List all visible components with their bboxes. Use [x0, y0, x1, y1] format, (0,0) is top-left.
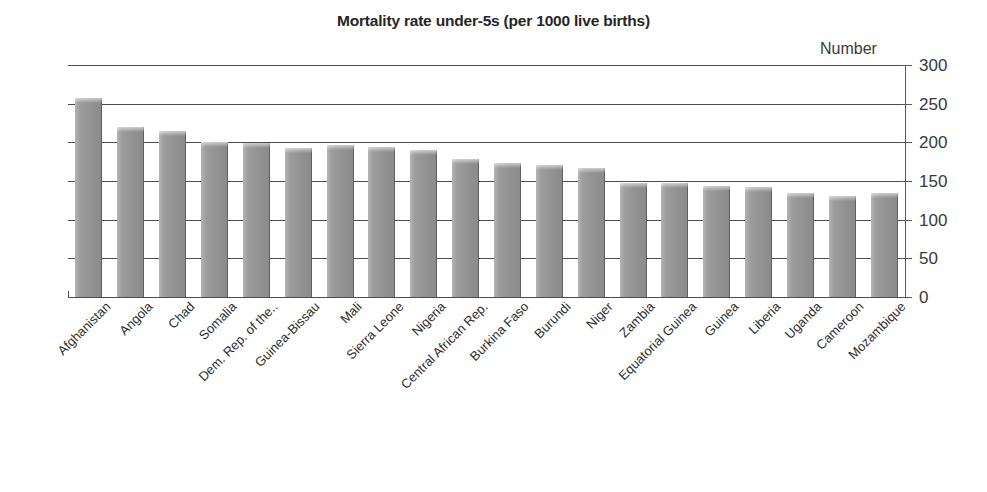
y-tick-label: 50	[919, 250, 938, 267]
y-axis: 050100150200250300	[905, 65, 987, 297]
x-tick-label: Liberia	[745, 299, 783, 337]
bar	[661, 183, 688, 297]
bar	[159, 131, 186, 297]
y-tick-label: 200	[919, 134, 947, 151]
bar	[285, 148, 312, 297]
x-tick-label: Chad	[165, 299, 198, 332]
bar	[452, 159, 479, 297]
bar	[703, 186, 730, 297]
bar	[578, 168, 605, 297]
y-axis-unit-label: Number	[820, 40, 877, 58]
x-tick-label: Guinea	[701, 299, 741, 339]
chart-container: Mortality rate under-5s (per 1000 live b…	[0, 0, 987, 492]
y-tick-label: 250	[919, 95, 947, 112]
x-tick-label: Mali	[337, 299, 364, 326]
x-tick-label: Nigeria	[409, 299, 449, 339]
plot-area	[68, 65, 905, 297]
x-tick-label: Niger	[583, 299, 616, 332]
x-axis-labels: AfghanistanAngolaChadSomaliaDem. Rep. of…	[68, 299, 928, 489]
bar	[787, 193, 814, 297]
x-tick-label: Angola	[116, 299, 155, 338]
y-tick-label: 100	[919, 211, 947, 228]
bar	[745, 187, 772, 297]
bar	[368, 147, 395, 297]
y-tick-50	[901, 258, 912, 259]
x-axis-origin-cap	[68, 291, 69, 298]
bar	[243, 143, 270, 297]
y-tick-label: 150	[919, 173, 947, 190]
bar	[201, 142, 228, 297]
y-tick-250	[901, 104, 912, 105]
x-tick-label: Afghanistan	[54, 299, 113, 358]
x-axis-line	[68, 297, 905, 298]
x-tick-label: Zambia	[616, 299, 657, 340]
y-tick-0	[901, 297, 912, 298]
bar	[75, 98, 102, 297]
x-tick-label: Equatorial Guinea	[615, 299, 699, 383]
bar	[829, 196, 856, 297]
bar	[327, 145, 354, 297]
x-tick-label: Burundi	[532, 299, 574, 341]
y-tick-300	[901, 65, 912, 66]
bar	[494, 163, 521, 297]
y-tick-200	[901, 142, 912, 143]
chart-title: Mortality rate under-5s (per 1000 live b…	[0, 12, 987, 30]
bar	[536, 165, 563, 297]
bar	[871, 193, 898, 297]
y-tick-100	[901, 220, 912, 221]
y-tick-150	[901, 181, 912, 182]
bar-series	[68, 65, 905, 297]
bar	[117, 127, 144, 297]
bar	[410, 150, 437, 297]
y-tick-label: 300	[919, 57, 947, 74]
bar	[620, 183, 647, 298]
